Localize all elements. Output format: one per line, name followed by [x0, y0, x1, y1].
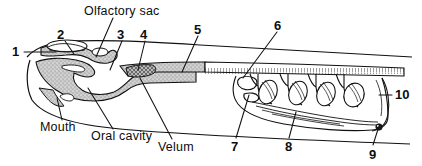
anatomical-figure: 1 2 3 4 5 6 7 8 9 10 Olfactory sac Mouth…	[0, 0, 422, 166]
label-leader-lines	[24, 18, 392, 145]
label-4: 4	[140, 28, 147, 41]
label-9: 9	[369, 148, 376, 161]
gill-basket	[233, 74, 389, 131]
label-7: 7	[231, 140, 238, 153]
label-3: 3	[117, 28, 124, 41]
label-1: 1	[12, 45, 19, 58]
label-mouth: Mouth	[40, 121, 76, 134]
label-8: 8	[285, 140, 292, 153]
label-5: 5	[194, 23, 201, 36]
label-10: 10	[395, 88, 409, 101]
gill-arch-group	[250, 74, 367, 110]
label-velum: Velum	[158, 141, 194, 154]
label-olfactory-sac: Olfactory sac	[84, 5, 160, 18]
leader-7	[236, 95, 249, 138]
label-oral-cavity: Oral cavity	[91, 130, 152, 143]
label-6: 6	[274, 19, 281, 32]
label-2: 2	[57, 28, 64, 41]
anatomy-illustration	[0, 0, 422, 166]
head-tissue-mass	[36, 45, 196, 107]
